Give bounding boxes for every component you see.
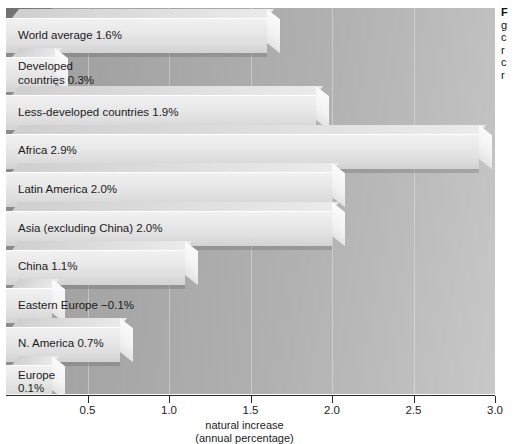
plot-area: World average 1.6%Developedcountries 0.3… bbox=[6, 8, 495, 394]
bar-end-cap bbox=[316, 86, 329, 130]
bar-top-face bbox=[12, 202, 339, 211]
caption-head: F bbox=[501, 6, 515, 19]
gridline-2.5 bbox=[414, 8, 415, 394]
caption-line: c bbox=[501, 31, 515, 44]
bar-top-face bbox=[12, 163, 339, 172]
bar-label-line: 0.1% bbox=[18, 382, 55, 394]
x-axis-title-line2: (annual percentage) bbox=[0, 432, 489, 444]
tick-label-2.5: 2.5 bbox=[406, 404, 422, 416]
bar-label-line: Africa 2.9% bbox=[18, 144, 77, 157]
bar-label: Europe0.1% bbox=[18, 365, 55, 394]
tick-mark-1.0 bbox=[169, 396, 170, 403]
tick-mark-2.0 bbox=[332, 396, 333, 403]
bar-label-line: Eastern Europe −0.1% bbox=[18, 299, 134, 312]
bar-end-cap bbox=[479, 125, 492, 169]
bar-top-face bbox=[12, 86, 323, 95]
x-axis-title: natural increase (annual percentage) bbox=[0, 419, 489, 444]
bar-label-line: Latin America 2.0% bbox=[18, 183, 117, 196]
bar-label-line: World average 1.6% bbox=[18, 29, 122, 42]
bar-europe[interactable]: Europe0.1% bbox=[6, 365, 52, 394]
tick-label-1.0: 1.0 bbox=[161, 404, 177, 416]
bar-label: World average 1.6% bbox=[18, 18, 122, 52]
tick-label-3.0: 3.0 bbox=[487, 404, 503, 416]
caption-lines: gcrcr bbox=[501, 19, 515, 82]
tick-label-1.5: 1.5 bbox=[243, 404, 259, 416]
bar-world-average[interactable]: World average 1.6% bbox=[6, 18, 267, 52]
caption-line: g bbox=[501, 19, 515, 32]
bar-label-line: China 1.1% bbox=[18, 260, 77, 273]
bar-label-line: Less-developed countries 1.9% bbox=[18, 106, 178, 119]
x-axis-title-line1: natural increase bbox=[0, 419, 489, 432]
tick-mark-3.0 bbox=[495, 396, 496, 403]
bar-top-face bbox=[12, 9, 274, 18]
bar-end-cap bbox=[267, 9, 280, 53]
gridline-2.0 bbox=[332, 8, 333, 394]
tick-mark-0.5 bbox=[88, 396, 89, 403]
bar-top-face bbox=[12, 241, 192, 250]
bar-label-line: Asia (excluding China) 2.0% bbox=[18, 222, 162, 235]
bar-label: Asia (excluding China) 2.0% bbox=[18, 211, 162, 245]
bar-label-line: N. America 0.7% bbox=[18, 337, 104, 350]
tick-mark-2.5 bbox=[414, 396, 415, 403]
bar-end-cap bbox=[332, 202, 345, 246]
tick-label-0.5: 0.5 bbox=[80, 404, 96, 416]
bar-top-face bbox=[12, 125, 486, 134]
tick-mark-1.5 bbox=[251, 396, 252, 403]
bar-label-line: Developed bbox=[18, 60, 94, 74]
caption-line: r bbox=[501, 44, 515, 57]
figure-caption: F gcrcr bbox=[501, 6, 515, 82]
bar-label-line: Europe bbox=[18, 369, 55, 383]
caption-line: r bbox=[501, 69, 515, 82]
bar-top-face bbox=[12, 318, 127, 327]
caption-line: c bbox=[501, 56, 515, 69]
bar-asia-excluding-china[interactable]: Asia (excluding China) 2.0% bbox=[6, 211, 332, 245]
tick-label-2.0: 2.0 bbox=[324, 404, 340, 416]
bar-end-cap bbox=[120, 318, 133, 362]
